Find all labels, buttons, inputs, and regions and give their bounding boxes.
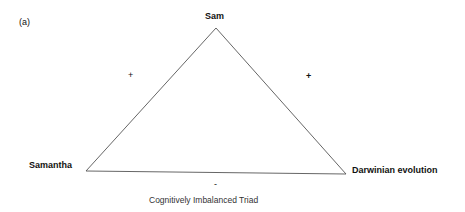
edge-sam-darwinian bbox=[216, 28, 346, 174]
triangle-edges bbox=[0, 0, 465, 212]
node-sam: Sam bbox=[205, 11, 224, 21]
edge-sign-bottom: - bbox=[214, 179, 217, 189]
panel-label: (a) bbox=[19, 17, 30, 27]
triad-diagram: (a) Sam Samantha Darwinian evolution + +… bbox=[0, 0, 465, 212]
edge-sam-samantha bbox=[86, 28, 216, 171]
figure-caption: Cognitively Imbalanced Triad bbox=[149, 195, 258, 205]
edge-sign-right: + bbox=[306, 71, 311, 81]
node-samantha: Samantha bbox=[29, 160, 72, 170]
edge-sign-left: + bbox=[128, 70, 133, 80]
node-darwinian-evolution: Darwinian evolution bbox=[352, 165, 438, 175]
edge-samantha-darwinian bbox=[86, 171, 346, 174]
